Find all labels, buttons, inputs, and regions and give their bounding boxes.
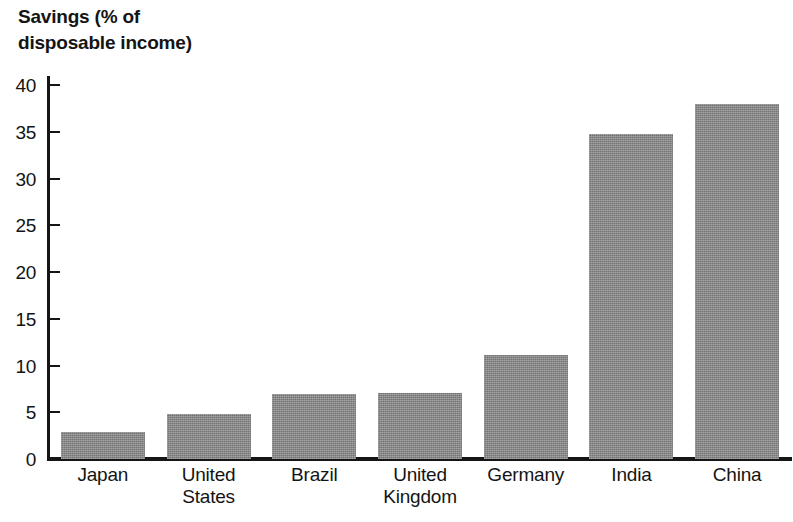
x-category-label: United States — [156, 464, 262, 508]
x-category-label: United Kingdom — [367, 464, 473, 508]
bar — [167, 414, 251, 459]
bar — [61, 432, 145, 459]
bar — [695, 104, 779, 459]
x-category-label: Brazil — [261, 464, 367, 486]
bar — [378, 393, 462, 459]
bars-group — [0, 0, 793, 522]
x-category-label: India — [579, 464, 685, 486]
x-category-label: China — [684, 464, 790, 486]
bar-chart: Savings (% of disposable income) 4035302… — [0, 0, 793, 522]
bar — [589, 134, 673, 459]
x-category-label: Germany — [473, 464, 579, 486]
bar — [484, 355, 568, 459]
bar — [272, 394, 356, 459]
x-category-label: Japan — [50, 464, 156, 486]
